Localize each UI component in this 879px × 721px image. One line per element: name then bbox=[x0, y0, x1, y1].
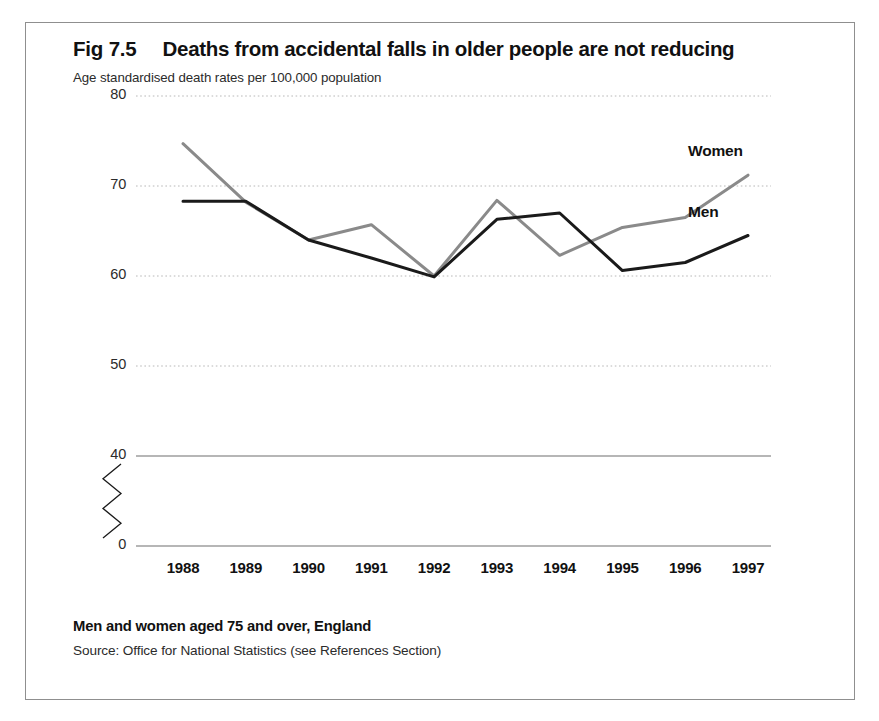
plot-area: 80706050400 1988198919901991199219931994… bbox=[26, 23, 856, 701]
gridlines bbox=[136, 96, 771, 546]
x-axis-tick-label: 1993 bbox=[462, 559, 532, 576]
series-label-men: Men bbox=[688, 203, 718, 221]
y-axis-tick-label: 60 bbox=[86, 266, 126, 282]
series-lines bbox=[183, 144, 748, 277]
x-axis-tick-label: 1988 bbox=[148, 559, 218, 576]
footer-caption: Men and women aged 75 and over, England bbox=[73, 618, 833, 634]
series-label-women: Women bbox=[688, 142, 743, 160]
x-axis-tick-label: 1994 bbox=[525, 559, 595, 576]
figure-frame: Fig 7.5 Deaths from accidental falls in … bbox=[25, 22, 855, 700]
axis-break-zigzag bbox=[103, 464, 121, 538]
chart-svg bbox=[26, 23, 856, 701]
axis-break-path bbox=[103, 464, 121, 538]
y-axis-tick-label: 50 bbox=[86, 356, 126, 372]
x-axis-tick-label: 1997 bbox=[713, 559, 783, 576]
x-axis-tick-label: 1991 bbox=[336, 559, 406, 576]
y-axis-tick-label: 0 bbox=[86, 536, 126, 552]
y-axis-tick-label: 80 bbox=[86, 86, 126, 102]
series-line-women bbox=[183, 144, 748, 276]
x-axis-tick-label: 1989 bbox=[211, 559, 281, 576]
y-axis-tick-label: 40 bbox=[86, 446, 126, 462]
x-axis-tick-label: 1992 bbox=[399, 559, 469, 576]
x-axis-tick-label: 1996 bbox=[650, 559, 720, 576]
y-axis-tick-label: 70 bbox=[86, 176, 126, 192]
footer-source: Source: Office for National Statistics (… bbox=[73, 643, 833, 658]
figure-footer: Men and women aged 75 and over, England … bbox=[73, 618, 833, 658]
x-axis-tick-label: 1995 bbox=[587, 559, 657, 576]
x-axis-tick-label: 1990 bbox=[274, 559, 344, 576]
